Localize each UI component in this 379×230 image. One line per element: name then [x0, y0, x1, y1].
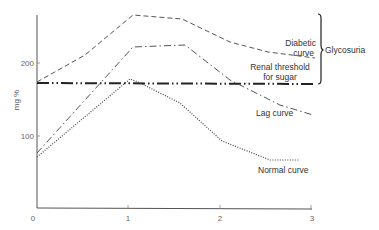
diabetic-curve-label-line1: Diabetic: [285, 38, 316, 48]
y-tick-label-200: 200: [21, 59, 35, 68]
y-tick-label-100: 100: [21, 132, 35, 141]
renal-threshold-label-line2: for sugar: [263, 72, 297, 82]
glycosuria-label: Glycosuria: [325, 45, 365, 55]
normal-curve-label: Normal curve: [258, 165, 309, 175]
renal-threshold-line: [37, 83, 315, 84]
y-axis-label: mg %: [12, 90, 21, 110]
renal-threshold-label-line1: Renal threshold: [250, 62, 310, 72]
glucose-tolerance-chart: 200 100 mg % 0 1 2 3 Diabetic curve Rena…: [0, 0, 379, 230]
x-tick-label-1: 1: [126, 214, 131, 223]
x-tick-label-2: 2: [218, 214, 223, 223]
normal-curve: [37, 79, 300, 160]
glycosuria-bracket: [318, 14, 323, 84]
lag-curve-label: Lag curve: [256, 108, 294, 118]
x-axis: [37, 208, 312, 209]
x-tick-label-0: 0: [31, 214, 36, 223]
diabetic-curve-label-line2: curve: [293, 48, 314, 58]
x-tick-label-3: 3: [310, 214, 315, 223]
